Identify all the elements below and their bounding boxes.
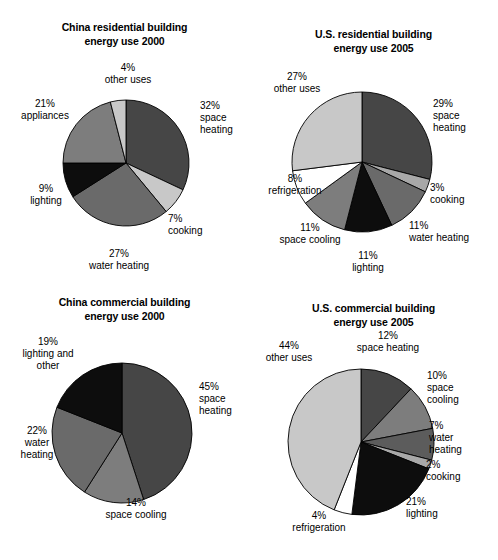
slice-label: 8% refrigeration [268, 173, 321, 197]
slice-label: 45% space heating [199, 381, 232, 418]
pie-slice [292, 92, 362, 171]
slice-label: 44% other uses [266, 340, 313, 364]
slice-label: 32% space heating [200, 100, 233, 137]
pie-chart-china-residential [0, 0, 249, 284]
chart-panel-us-residential: U.S. residential building energy use 200… [249, 0, 498, 284]
slice-label: 9% lighting [30, 183, 62, 207]
slice-label: 4% other uses [105, 62, 152, 86]
slice-label: 14% space cooling [105, 497, 166, 521]
slice-label: 7% water heating [429, 420, 462, 457]
slice-label: 27% water heating [89, 248, 149, 272]
slice-label: 19% lighting and other [22, 336, 73, 373]
chart-panel-china-commercial: China commercial building energy use 200… [0, 284, 249, 560]
slice-label: 3% cooking [430, 182, 464, 206]
slice-label: 22% water heating [21, 425, 54, 462]
slice-label: 12% space heating [357, 330, 419, 354]
chart-panel-china-residential: China residential building energy use 20… [0, 0, 249, 284]
slice-label: 27% other uses [274, 71, 321, 95]
slice-label: 4% refrigeration [292, 510, 345, 534]
slice-label: 2% cooking [426, 459, 460, 483]
pie-chart-figure: China residential building energy use 20… [0, 0, 498, 560]
slice-label: 21% lighting [406, 496, 438, 520]
slice-label: 21% appliances [21, 98, 69, 122]
slice-label: 29% space heating [433, 98, 466, 135]
slice-label: 11% water heating [409, 220, 469, 244]
slice-label: 10% space cooling [427, 370, 459, 407]
slice-label: 11% space cooling [279, 222, 340, 246]
slice-label: 11% lighting [352, 250, 384, 274]
chart-panel-us-commercial: U.S. commercial building energy use 2005… [249, 284, 498, 560]
slice-label: 7% cooking [168, 213, 202, 237]
